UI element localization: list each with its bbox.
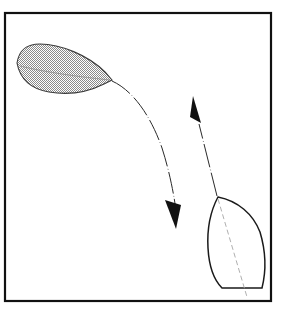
diagram-svg: [0, 0, 281, 309]
figure-canvas: [0, 0, 281, 309]
